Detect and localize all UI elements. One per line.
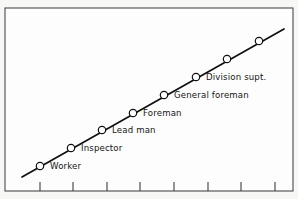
point-lead-man xyxy=(98,126,105,133)
point-foreman-label: Foreman xyxy=(143,108,182,118)
point-unlabeled-7 xyxy=(223,55,230,62)
plot-background xyxy=(5,8,293,191)
point-worker-label: Worker xyxy=(50,161,81,171)
point-unlabeled-8 xyxy=(255,37,262,44)
point-division-supt-label: Division supt. xyxy=(206,72,266,82)
chart-figure-root: WorkerInspectorLead manForemanGeneral fo… xyxy=(0,0,298,199)
point-inspector-label: Inspector xyxy=(81,143,123,153)
career-progression-chart: WorkerInspectorLead manForemanGeneral fo… xyxy=(0,0,298,199)
point-inspector xyxy=(67,144,74,151)
point-lead-man-label: Lead man xyxy=(112,125,156,135)
point-foreman xyxy=(129,109,136,116)
point-worker xyxy=(36,162,43,169)
point-general-foreman xyxy=(160,91,167,98)
point-general-foreman-label: General foreman xyxy=(174,90,249,100)
point-division-supt xyxy=(192,73,199,80)
